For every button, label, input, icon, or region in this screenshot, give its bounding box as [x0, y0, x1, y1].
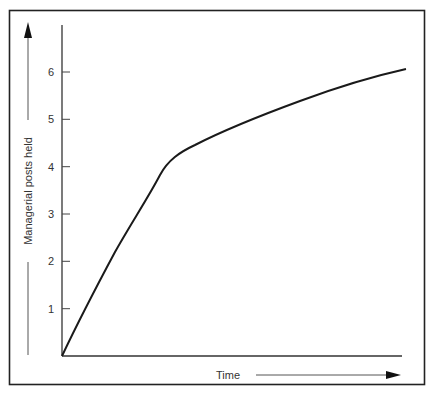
data-line: [62, 69, 406, 356]
chart-frame: [10, 11, 425, 385]
arrow-up-icon: [24, 22, 32, 38]
y-tick-label: 4: [48, 161, 54, 173]
y-tick-label: 6: [48, 66, 54, 78]
y-tick-label: 3: [48, 208, 54, 220]
x-axis-title: Time: [216, 369, 240, 381]
y-axis-title: Managerial posts held: [22, 137, 34, 245]
y-tick-label: 2: [48, 255, 54, 267]
y-ticks: [62, 72, 70, 309]
y-tick-label: 1: [48, 303, 54, 315]
x-axis-title-group: Time: [216, 369, 401, 381]
chart-canvas: 1 2 3 4 5 6 Managerial posts held Time: [0, 0, 433, 397]
y-axis-title-group: Managerial posts held: [22, 22, 34, 355]
y-tick-labels: 1 2 3 4 5 6: [48, 66, 54, 315]
arrow-right-icon: [386, 371, 401, 379]
y-tick-label: 5: [48, 113, 54, 125]
